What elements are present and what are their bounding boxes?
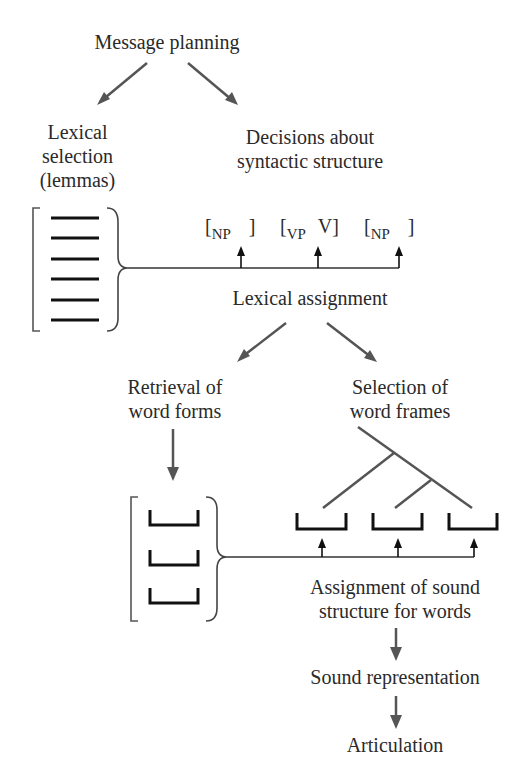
label-line: Assignment of sound [290, 575, 500, 599]
bracket-close: ] [249, 215, 256, 237]
bracket-close: ] [408, 215, 415, 237]
word-frames-tree [323, 427, 472, 508]
bracket-open: [ [364, 215, 371, 237]
word-form-slots-bracket [131, 497, 227, 621]
arrow-to-sound-representation [390, 628, 402, 661]
label-text: Sound representation [290, 665, 500, 689]
label-line: word forms [110, 399, 240, 423]
lemma-list-bracket [33, 208, 128, 331]
label-line: Retrieval of [110, 375, 240, 399]
node-articulation: Articulation [330, 733, 460, 757]
node-lexical-selection: Lexical selection (lemmas) [20, 120, 135, 192]
phrase-label: NP [371, 226, 390, 242]
node-sound-representation: Sound representation [290, 665, 500, 689]
head-label: V [318, 215, 332, 237]
phrase-label: VP [287, 226, 306, 242]
label-text: Articulation [330, 733, 460, 757]
syntactic-slot-np-2: [NP] [364, 216, 415, 244]
arrow-to-word-form-slots [167, 429, 179, 481]
syntactic-slot-np-1: [NP] [205, 216, 256, 244]
bracket-close: ] [332, 215, 339, 237]
sound-assignment-connector [227, 538, 478, 557]
label-text: Message planning [82, 30, 252, 54]
node-retrieval-word-forms: Retrieval of word forms [110, 375, 240, 423]
label-line: structure for words [290, 599, 500, 623]
node-syntactic-decisions: Decisions about syntactic structure [210, 125, 410, 173]
label-line: selection [20, 144, 135, 168]
arrow-to-lexical-selection [97, 63, 147, 105]
bracket-open: [ [280, 215, 287, 237]
word-frame-slots [297, 513, 497, 529]
syntactic-slot-vp: [VPV] [280, 216, 339, 244]
label-text: Lexical assignment [210, 286, 410, 310]
arrow-to-syntactic-decisions [188, 63, 238, 105]
label-line: Lexical [20, 120, 135, 144]
label-line: word frames [330, 399, 470, 423]
label-line: syntactic structure [210, 149, 410, 173]
node-assignment-sound-structure: Assignment of sound structure for words [290, 575, 500, 623]
arrow-to-selection-word-frames [327, 323, 377, 362]
arrow-to-articulation [390, 696, 402, 729]
phrase-label: NP [212, 226, 231, 242]
node-message-planning: Message planning [82, 30, 252, 54]
node-selection-word-frames: Selection of word frames [330, 375, 470, 423]
arrow-to-retrieval-word-forms [237, 323, 286, 362]
label-line: (lemmas) [20, 168, 135, 192]
bracket-open: [ [205, 215, 212, 237]
node-lexical-assignment: Lexical assignment [210, 286, 410, 310]
label-line: Decisions about [210, 125, 410, 149]
lexical-assignment-connector [128, 246, 403, 268]
label-line: Selection of [330, 375, 470, 399]
